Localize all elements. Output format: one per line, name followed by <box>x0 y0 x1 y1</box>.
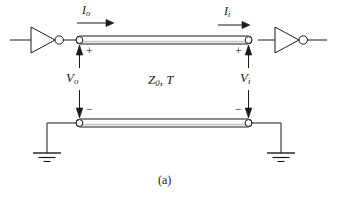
voltage-arrow-out-head-down <box>76 108 83 118</box>
polarity-plus-left: + <box>86 45 93 57</box>
polarity-minus-left: − <box>86 103 93 115</box>
figure-canvas: Io Ii Vo Vi Z0, T + − + − (a) <box>0 0 337 198</box>
terminal-bottom-left <box>76 120 83 127</box>
voltage-arrow-in-head-down <box>245 108 252 118</box>
current-arrow-in <box>218 21 250 28</box>
label-voltage-out-sub: o <box>74 76 78 86</box>
label-current-in: Ii <box>224 5 230 19</box>
ground-left <box>33 123 76 162</box>
label-current-in-sub: i <box>228 10 230 19</box>
terminal-bottom-right <box>245 120 252 127</box>
current-arrow-out <box>77 19 114 26</box>
transmission-line-bottom-body <box>76 119 252 127</box>
circuit-diagram <box>0 0 337 198</box>
current-arrow-in-head <box>242 21 250 28</box>
inverter-left <box>10 27 76 53</box>
inverter-left-bubble-icon <box>55 36 63 44</box>
transmission-line-bottom <box>76 119 252 127</box>
transmission-line-top <box>76 36 252 44</box>
label-voltage-in: Vi <box>240 71 250 86</box>
terminal-top-right <box>245 37 252 44</box>
inverter-right-triangle <box>275 27 299 53</box>
label-current-out: Io <box>82 4 90 18</box>
ground-right <box>252 123 295 162</box>
label-voltage-in-symbol: V <box>240 70 248 85</box>
polarity-minus-right: − <box>235 103 242 115</box>
label-delay-symbol: T <box>166 72 173 87</box>
label-voltage-in-sub: i <box>248 76 250 86</box>
inverter-right-bubble-icon <box>299 36 307 44</box>
label-current-out-sub: o <box>86 9 90 18</box>
label-line-parameters: Z0, T <box>148 73 173 88</box>
inverter-left-triangle <box>31 27 55 53</box>
inverter-right <box>258 27 327 53</box>
label-voltage-out: Vo <box>66 71 78 86</box>
label-voltage-out-symbol: V <box>66 70 74 85</box>
voltage-arrow-in-head-up <box>245 45 252 55</box>
current-arrow-out-head <box>106 19 114 26</box>
terminal-top-left <box>76 37 83 44</box>
voltage-arrow-out-head-up <box>76 45 83 55</box>
transmission-line-top-body <box>76 36 252 44</box>
figure-caption: (a) <box>158 174 171 186</box>
polarity-plus-right: + <box>235 45 242 57</box>
